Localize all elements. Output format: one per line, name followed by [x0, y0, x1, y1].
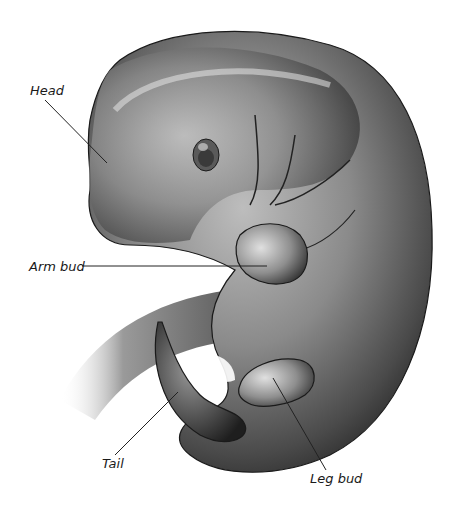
- leader-line-tail: [115, 392, 178, 455]
- embryo-illustration: [0, 0, 455, 508]
- label-head: Head: [30, 84, 64, 97]
- embryo-diagram: Head Arm bud Tail Leg bud: [0, 0, 455, 508]
- label-tail: Tail: [102, 457, 124, 470]
- label-arm-bud: Arm bud: [29, 260, 85, 273]
- label-leg-bud: Leg bud: [310, 472, 362, 485]
